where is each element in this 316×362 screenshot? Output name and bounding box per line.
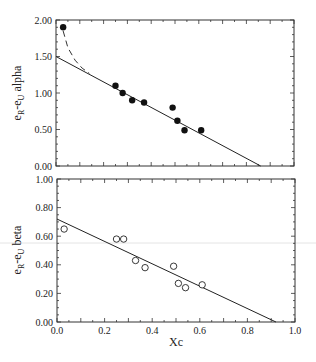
data-point (174, 118, 180, 124)
data-point (112, 83, 118, 89)
data-point (198, 127, 204, 133)
data-point (175, 280, 181, 286)
y-tick-label: 1.00 (36, 174, 54, 185)
fit-line (56, 57, 261, 167)
data-point (141, 99, 147, 105)
data-point (129, 97, 135, 103)
data-point (169, 104, 175, 110)
y-tick-label: 0.00 (35, 161, 53, 172)
data-point (170, 263, 176, 269)
y-tick-label: 1.50 (35, 51, 53, 62)
x-tick-label: 1.0 (289, 325, 302, 336)
data-point (120, 236, 126, 242)
y-tick-label: 0.20 (36, 288, 54, 299)
y-tick-label: 0.50 (35, 124, 53, 135)
x-tick-label: 0.6 (194, 325, 207, 336)
beta-panel: 0.000.200.400.600.801.000.00.20.40.60.81… (36, 174, 302, 337)
y-tick-label: 0.80 (36, 202, 54, 213)
plot-frame (57, 179, 295, 322)
x-tick-label: 0.0 (51, 325, 64, 336)
data-point (132, 257, 138, 263)
y-tick-label: 2.00 (35, 15, 53, 26)
y-tick-label: 1.00 (35, 88, 53, 99)
x-tick-label: 0.8 (241, 325, 254, 336)
y-tick-label: 0.60 (36, 231, 54, 242)
data-point (119, 90, 125, 96)
y-tick-label: 0.40 (36, 259, 54, 270)
fit-line (57, 219, 276, 322)
x-tick-label: 0.2 (98, 325, 111, 336)
alpha-y-axis-label: eR-eU alpha (10, 65, 26, 120)
chart-figure: 0.000.501.001.502.00 0.000.200.400.600.8… (0, 0, 316, 362)
data-point (181, 127, 187, 133)
plot-frame (56, 20, 294, 166)
data-point (142, 264, 148, 270)
data-point (182, 284, 188, 290)
alpha-panel: 0.000.501.001.502.00 (35, 15, 295, 172)
data-point (60, 24, 66, 30)
data-point (113, 236, 119, 242)
data-point (199, 282, 205, 288)
beta-y-axis-label: eR-eU beta (10, 225, 26, 274)
data-point (61, 226, 67, 232)
x-tick-label: 0.4 (146, 325, 159, 336)
x-axis-label: Xc (169, 335, 183, 349)
